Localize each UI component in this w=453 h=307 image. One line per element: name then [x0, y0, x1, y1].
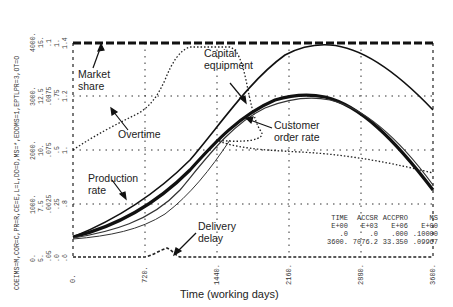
x-tick-0: 0. [69, 275, 77, 283]
label-capital-line2: equipment [204, 59, 253, 71]
x-tick-2880: 2880. [357, 264, 365, 285]
y-tick-group-1c: .0625 [46, 194, 53, 214]
y-tick-group-1b: 7.5 [38, 200, 45, 212]
y-tick-group-3e: 1.2 [62, 90, 69, 102]
y-tick-group-1: 1000. [30, 194, 37, 214]
label-delivery-line2: delay [198, 232, 236, 244]
y-tick-group-2e: 1. [62, 146, 69, 154]
label-overtime: Overtime [118, 128, 161, 140]
y-tick-group-2: 2000. [30, 140, 37, 160]
y-tick-group-3: 3000. [30, 86, 37, 106]
summary-table-units: E+00 E+03 E+06 E+00 [318, 222, 438, 230]
label-market-share-line1: Market [78, 68, 110, 80]
label-production-rate: Production rate [88, 172, 138, 196]
label-capital-line1: Capital [204, 47, 253, 59]
label-market-share-line2: share [78, 80, 110, 92]
y-tick-group-4: 4000. [30, 32, 37, 52]
summary-table-header: TIME ACCSR ACCPRO MS [318, 214, 438, 222]
label-production-line2: rate [88, 184, 138, 196]
label-delivery-line1: Delivery [198, 220, 236, 232]
y-tick-group-3c: .0875 [46, 86, 53, 106]
y-tick-group-1d: .25 [54, 198, 61, 210]
y-tick-group-0: 0. [30, 254, 37, 262]
summary-table-row: .0 .0 .000 .10000 [318, 230, 438, 238]
label-capital-equipment: Capital equipment [204, 47, 253, 71]
summary-table: TIME ACCSR ACCPRO MS E+00 E+03 E+06 E+00… [318, 214, 438, 246]
y-tick-group-4b: 15. [38, 36, 45, 48]
y-tick-group-4e: 1.4 [62, 37, 69, 49]
label-market-share: Market share [78, 68, 110, 92]
label-customer-line2: order rate [274, 131, 320, 143]
x-tick-2160: 2160. [285, 264, 293, 285]
y-tick-group-0c: .05 [46, 250, 53, 262]
x-tick-3600: 3600. [429, 264, 437, 285]
y-tick-group-3d: .75 [54, 89, 61, 101]
summary-table-row: 3600. 7076.2 33.350 .09967 [318, 238, 438, 246]
y-tick-group-4d: 1. [54, 39, 61, 47]
x-tick-1440: 1440. [213, 264, 221, 285]
label-production-line1: Production [88, 172, 138, 184]
series-delivery-delay [73, 248, 433, 257]
y-tick-group-2b: 10. [38, 144, 45, 156]
y-tick-group-1e: .8 [62, 200, 69, 208]
label-customer-line1: Customer [274, 119, 320, 131]
x-axis-label: Time (working days) [180, 288, 279, 300]
y-tick-group-0b: 5. [38, 254, 45, 262]
label-customer-order-rate: Customer order rate [274, 119, 320, 143]
series-capital-equipment [73, 45, 433, 237]
label-delivery-delay: Delivery delay [198, 220, 236, 244]
x-tick-720: 720. [141, 266, 149, 283]
y-tick-group-3b: 12.5 [38, 88, 45, 104]
y-tick-group-4c: .1 [46, 39, 53, 47]
y-tick-group-0e: .6 [62, 254, 69, 262]
y-tick-group-2c: .075 [46, 142, 53, 158]
y-axis-legend-label: COEIMS=M,COR=C,PR=R,CE=E,L=L,DD=D,MS=*,E… [14, 56, 21, 290]
y-tick-group-0d: .0 [54, 254, 61, 262]
y-tick-group-2d: .5 [54, 146, 61, 154]
